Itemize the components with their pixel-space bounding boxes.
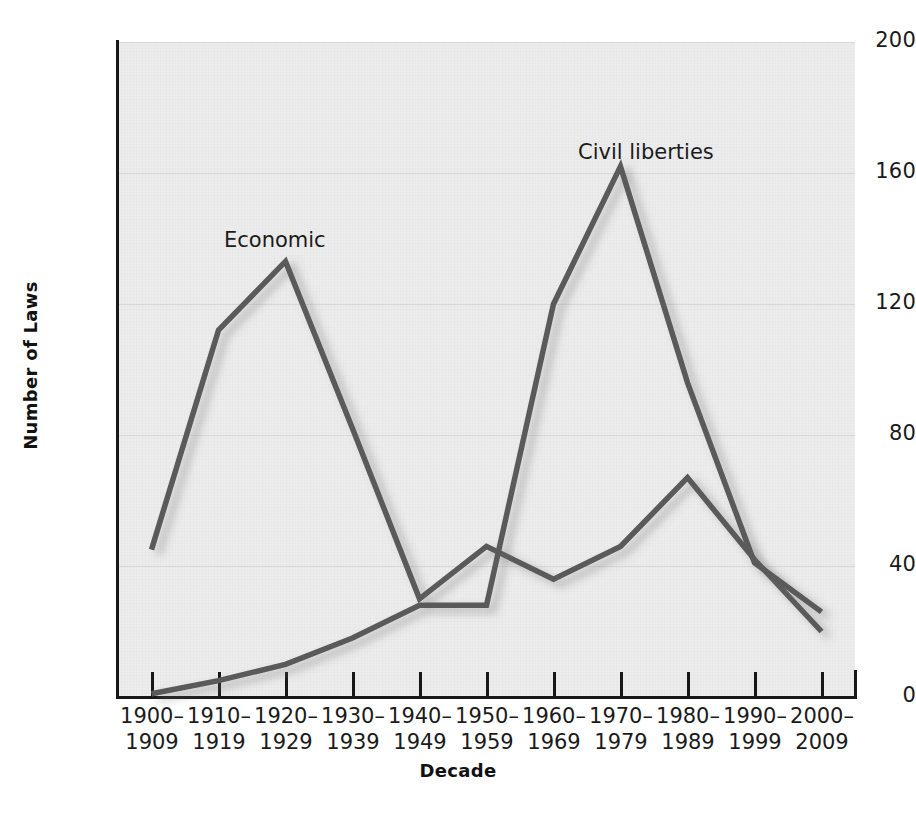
x-tick-mark-10 <box>821 672 824 697</box>
gridline-200 <box>118 42 855 43</box>
x-tick-mark-0 <box>151 672 154 697</box>
series-label-civil-liberties: Civil liberties <box>578 140 714 164</box>
x-tick-mark-7 <box>620 672 623 697</box>
gridline-80 <box>118 435 855 436</box>
y-tick-label-120: 120 <box>812 290 916 314</box>
x-tick-mark-5 <box>486 672 489 697</box>
x-tick-mark-6 <box>553 672 556 697</box>
x-tick-mark-1 <box>218 672 221 697</box>
x-tick-mark-3 <box>352 672 355 697</box>
x-tick-mark-4 <box>419 672 422 697</box>
x-tick-mark-9 <box>754 672 757 697</box>
y-tick-label-200: 200 <box>812 28 916 52</box>
plot-area <box>118 42 855 697</box>
x-tick-mark-8 <box>687 672 690 697</box>
x-tick-label-10: 2000– 2009 <box>774 703 870 755</box>
y-axis-title: Number of Laws <box>20 246 41 486</box>
chart-figure: 04080120160200 1900– 19091910– 19191920–… <box>0 0 916 815</box>
plot-background-texture <box>118 42 855 697</box>
gridline-160 <box>118 173 855 174</box>
y-tick-label-40: 40 <box>812 552 916 576</box>
y-tick-label-160: 160 <box>812 159 916 183</box>
series-label-economic: Economic <box>224 228 326 252</box>
y-axis-spine <box>116 40 119 699</box>
gridline-120 <box>118 304 855 305</box>
y-tick-label-80: 80 <box>812 421 916 445</box>
gridline-40 <box>118 566 855 567</box>
x-tick-mark-2 <box>285 672 288 697</box>
x-axis-title: Decade <box>0 760 916 781</box>
